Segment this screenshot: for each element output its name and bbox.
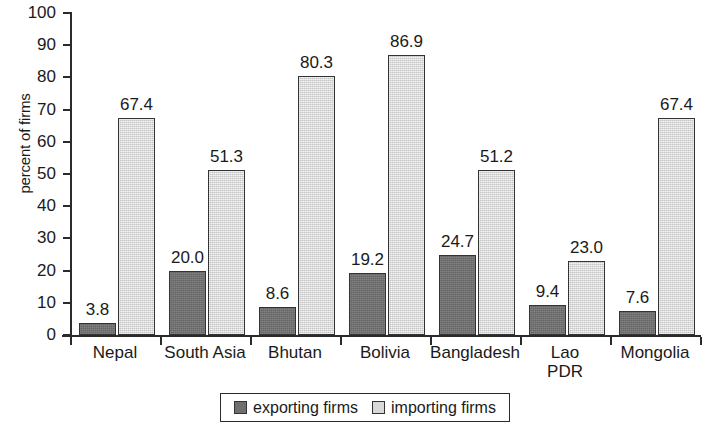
- x-axis-label-line: PDR: [510, 362, 620, 381]
- bar-exporting-mongolia: [619, 311, 656, 335]
- plot-area: 3.867.420.051.38.680.319.286.924.751.29.…: [70, 13, 701, 335]
- bar-value-label: 51.2: [467, 148, 527, 165]
- bar-value-label: 67.4: [107, 96, 167, 113]
- bar-exporting-south-asia: [169, 271, 206, 335]
- bar-exporting-bolivia: [349, 273, 386, 335]
- bar-importing-bhutan: [298, 76, 335, 335]
- legend-swatch-icon: [234, 401, 247, 414]
- bar-importing-mongolia: [658, 118, 695, 335]
- y-tick-label: 50: [12, 165, 56, 182]
- bar-importing-nepal: [118, 118, 155, 335]
- bar-importing-bolivia: [388, 55, 425, 335]
- y-tick-label: 30: [12, 229, 56, 246]
- legend-swatch-icon: [372, 401, 385, 414]
- legend-item-exporting: exporting firms: [234, 400, 358, 416]
- y-tick-label: 40: [12, 197, 56, 214]
- x-axis-line: [62, 335, 701, 337]
- chart-legend: exporting firmsimporting firms: [220, 393, 510, 422]
- legend-label: importing firms: [391, 400, 496, 416]
- y-tick-label: 10: [12, 294, 56, 311]
- legend-item-importing: importing firms: [372, 400, 496, 416]
- legend-label: exporting firms: [253, 400, 358, 416]
- y-tick-label: 60: [12, 133, 56, 150]
- bar-exporting-lao-pdr: [529, 305, 566, 335]
- y-tick-label: 100: [12, 4, 56, 21]
- bar-chart: percent of firms 1009080706050403020100 …: [0, 0, 703, 428]
- bar-importing-lao-pdr: [568, 261, 605, 335]
- y-tick-label: 0: [12, 326, 56, 343]
- bar-value-label: 80.3: [287, 54, 347, 71]
- y-tick-label: 70: [12, 101, 56, 118]
- bar-value-label: 23.0: [557, 239, 617, 256]
- bar-exporting-bhutan: [259, 307, 296, 335]
- x-axis-label-line: Mongolia: [600, 343, 703, 362]
- x-axis-label-mongolia: Mongolia: [600, 343, 703, 362]
- y-tick-label: 20: [12, 262, 56, 279]
- y-tick-label: 90: [12, 36, 56, 53]
- bar-value-label: 86.9: [377, 33, 437, 50]
- bar-value-label: 51.3: [197, 148, 257, 165]
- bar-importing-bangladesh: [478, 170, 515, 335]
- y-tick-label: 80: [12, 68, 56, 85]
- bar-value-label: 67.4: [647, 96, 703, 113]
- bar-importing-south-asia: [208, 170, 245, 335]
- bar-exporting-bangladesh: [439, 255, 476, 335]
- bar-exporting-nepal: [79, 323, 116, 335]
